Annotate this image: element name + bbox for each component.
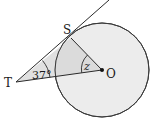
angle-label-o: z: [83, 60, 90, 73]
tangent-circle-diagram: T S O 37° z: [0, 0, 152, 118]
label-t: T: [4, 76, 12, 90]
label-s: S: [63, 23, 71, 37]
label-o: O: [106, 67, 116, 81]
center-point-o: [100, 68, 104, 72]
angle-label-t: 37°: [32, 69, 52, 82]
